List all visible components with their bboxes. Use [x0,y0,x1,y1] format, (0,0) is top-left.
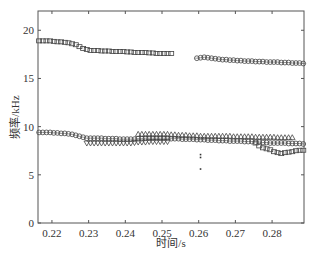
x-tick-label: 0.27 [226,227,246,239]
y-axis-label: 频率/kHz [8,95,21,139]
x-tick-label: 0.23 [79,227,99,239]
y-tick-label: 10 [23,121,35,133]
y-tick-label: 0 [29,217,35,229]
y-tick-label: 5 [29,169,35,181]
x-tick-label: 0.28 [262,227,282,239]
y-tick-label: 15 [23,72,35,84]
x-tick-label: 0.26 [189,227,209,239]
x-axis-label: 时间/s [156,237,185,249]
x-tick-label: 0.22 [42,227,61,239]
y-tick-label: 20 [23,24,35,36]
x-tick-label: 0.24 [116,227,136,239]
frequency-time-chart: 0.220.230.240.250.260.270.28 05101520 时间… [0,0,314,263]
